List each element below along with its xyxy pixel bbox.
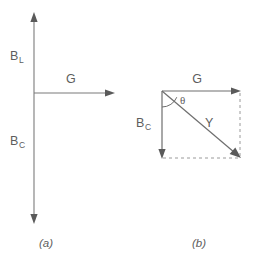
panel-b-label-y: Y <box>205 116 214 130</box>
panel-a-label-bl-subscript: L <box>19 55 24 65</box>
panel-b: G θ B C Y (b) <box>136 72 241 249</box>
panel-b-vector-y-line <box>162 91 235 153</box>
panel-a-label-bl: B L <box>10 49 24 65</box>
panel-a-right-arrowhead <box>105 89 115 96</box>
panel-b-label-bc-base: B <box>136 116 144 130</box>
panel-b-label-bc-subscript: C <box>145 122 151 132</box>
panel-a-label-bc-subscript: C <box>19 140 25 150</box>
panel-a-label-bc-base: B <box>10 134 18 148</box>
panel-b-label-g: G <box>192 72 202 86</box>
panel-a-label-bl-base: B <box>10 49 18 63</box>
panel-a-caption: (a) <box>39 237 53 249</box>
panel-a-label-g: G <box>66 72 76 86</box>
panel-a-label-bc: B C <box>10 134 25 150</box>
panel-b-label-theta: θ <box>180 94 185 106</box>
panel-b-label-bc: B C <box>136 116 151 132</box>
vector-diagram-figure: B L G B C (a) <box>0 0 256 261</box>
panel-a-down-arrowhead <box>30 214 37 224</box>
panel-a: B L G B C (a) <box>10 12 115 249</box>
panel-a-up-arrowhead <box>30 12 37 22</box>
figure-canvas: B L G B C (a) <box>0 0 256 261</box>
panel-b-vector-y-arrowhead <box>230 147 241 158</box>
panel-b-caption: (b) <box>192 237 206 249</box>
